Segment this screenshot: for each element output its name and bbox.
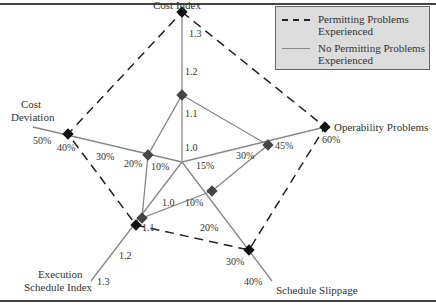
tick: 1.2 (185, 66, 198, 78)
tick: 1.1 (185, 108, 198, 120)
tick: 60% (322, 134, 340, 146)
tick: 1.0 (162, 197, 175, 209)
tick: 10% (151, 161, 169, 173)
dashed-line-swatch (282, 19, 310, 21)
tick: 1.3 (97, 276, 110, 288)
tick: 20% (124, 158, 142, 170)
axis-label-schedule-slippage: Schedule Slippage (276, 284, 358, 297)
tick: 30% (226, 256, 244, 268)
axis-label-cost-dev-2: Deviation (11, 111, 54, 124)
tick: 30% (236, 150, 254, 162)
legend-label: Permitting Problems (318, 13, 409, 25)
legend-label: No Permitting Problems (318, 42, 425, 54)
tick: 1.0 (185, 142, 198, 154)
tick: 1.1 (142, 222, 155, 234)
axis-label-cost-index: Cost Index (153, 0, 201, 12)
tick: 30% (96, 151, 114, 163)
tick: 10% (185, 197, 203, 209)
tick: 1.3 (189, 28, 202, 40)
tick: 20% (200, 222, 218, 234)
axis-label-cost-dev-1: Cost (21, 98, 41, 111)
legend-label: Experienced (318, 54, 425, 66)
legend-item-no-permitting: No Permitting Problems Experienced (282, 42, 425, 66)
solid-line-swatch (282, 48, 310, 49)
axis-label-operability: Operability Problems (334, 121, 428, 134)
axis-label-execution-1: Execution (38, 268, 83, 281)
tick: 40% (57, 142, 75, 154)
axis-label-execution-2: Schedule Index (24, 281, 92, 294)
tick: 15% (196, 160, 214, 172)
legend: Permitting Problems Experienced No Permi… (275, 6, 430, 70)
tick: 50% (33, 135, 51, 147)
tick: 45% (275, 140, 293, 152)
legend-label: Experienced (318, 25, 409, 37)
tick: 1.2 (119, 250, 132, 262)
legend-item-permitting: Permitting Problems Experienced (282, 13, 409, 37)
tick: 40% (244, 276, 262, 288)
